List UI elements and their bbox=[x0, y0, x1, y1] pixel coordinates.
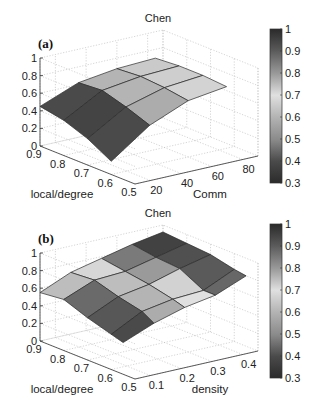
y-axis-label: local/degree bbox=[31, 188, 94, 200]
colorbar-tick-label: 0.3 bbox=[285, 177, 300, 189]
x-tick-label: 0.3 bbox=[210, 365, 225, 377]
chart-panel-b: 00.20.40.60.810.90.80.70.60.50.10.20.30.… bbox=[22, 207, 301, 395]
x-axis-label: density bbox=[192, 383, 229, 395]
y-tick-label: 0.6 bbox=[98, 177, 113, 189]
z-tick-label: 0.6 bbox=[22, 282, 37, 294]
y-tick-label: 0.7 bbox=[74, 362, 89, 374]
y-tick-label: 0.8 bbox=[50, 353, 65, 365]
colorbar: 10.90.80.70.60.50.40.3 bbox=[270, 23, 300, 189]
colorbar-tick-label: 0.5 bbox=[285, 133, 300, 145]
colorbar-tick-label: 0.9 bbox=[285, 240, 300, 252]
figure: 00.20.40.60.810.90.80.70.60.520406080loc… bbox=[0, 0, 315, 414]
z-tick-label: 0.6 bbox=[22, 87, 37, 99]
panel-label: (a) bbox=[38, 36, 53, 51]
colorbar-tick-label: 1 bbox=[285, 218, 291, 230]
colorbar-tick-label: 0.6 bbox=[285, 306, 300, 318]
z-tick-label: 0.2 bbox=[22, 122, 37, 134]
colorbar-tick-label: 0.4 bbox=[285, 155, 300, 167]
x-tick-label: 80 bbox=[243, 163, 255, 175]
colorbar-tick-label: 0.4 bbox=[285, 350, 300, 362]
colorbar-tick-label: 0.8 bbox=[285, 67, 300, 79]
y-tick-label: 0.5 bbox=[121, 186, 136, 198]
x-axis-label: Comm bbox=[193, 188, 227, 200]
y-tick-label: 0.7 bbox=[74, 167, 89, 179]
chart-panel-a: 00.20.40.60.810.90.80.70.60.520406080loc… bbox=[22, 12, 301, 200]
z-tick-label: 0.8 bbox=[22, 70, 37, 82]
chart-title: Chen bbox=[145, 207, 171, 219]
y-tick-label: 0.5 bbox=[121, 381, 136, 393]
panel-label: (b) bbox=[38, 231, 54, 246]
x-tick-label: 20 bbox=[150, 184, 162, 196]
x-tick-label: 0.2 bbox=[179, 372, 194, 384]
z-tick-label: 0.8 bbox=[22, 265, 37, 277]
z-tick-label: 0.2 bbox=[22, 317, 37, 329]
colorbar-tick-label: 0.5 bbox=[285, 328, 300, 340]
y-tick-label: 0.6 bbox=[98, 372, 113, 384]
y-tick-label: 0.8 bbox=[50, 158, 65, 170]
colorbar-tick-label: 0.6 bbox=[285, 111, 300, 123]
y-tick-label: 0.9 bbox=[26, 343, 41, 355]
chart-title: Chen bbox=[145, 12, 171, 24]
surface bbox=[40, 58, 227, 161]
colorbar-tick-label: 0.3 bbox=[285, 372, 300, 384]
colorbar-tick-label: 0.9 bbox=[285, 45, 300, 57]
colorbar-tick-label: 0.7 bbox=[285, 284, 300, 296]
x-tick-label: 60 bbox=[212, 170, 224, 182]
z-tick-label: 1 bbox=[31, 247, 37, 259]
colorbar-tick-label: 1 bbox=[285, 23, 291, 35]
z-tick-label: 0.4 bbox=[22, 300, 37, 312]
x-tick-label: 40 bbox=[181, 177, 193, 189]
y-tick-label: 0.9 bbox=[26, 148, 41, 160]
colorbar-tick-label: 0.8 bbox=[285, 262, 300, 274]
surface bbox=[40, 232, 246, 343]
x-tick-label: 0.1 bbox=[149, 379, 164, 391]
colorbar-tick-label: 0.7 bbox=[285, 89, 300, 101]
z-tick-label: 1 bbox=[31, 52, 37, 64]
y-axis-label: local/degree bbox=[31, 383, 94, 395]
colorbar: 10.90.80.70.60.50.40.3 bbox=[270, 218, 300, 384]
x-tick-label: 0.4 bbox=[241, 358, 256, 370]
z-tick-label: 0.4 bbox=[22, 105, 37, 117]
